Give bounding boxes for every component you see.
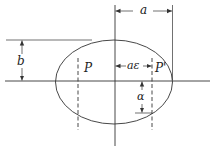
label-p-left: P <box>84 62 92 74</box>
label-ae: aε <box>127 60 139 71</box>
label-p-right: P' <box>155 62 166 74</box>
ellipse <box>56 40 173 124</box>
ellipse-diagram: a b aε P P' α <box>0 0 214 157</box>
label-b: b <box>17 55 25 67</box>
diagram-canvas <box>0 0 214 157</box>
label-alpha: α <box>137 91 144 102</box>
label-a: a <box>140 4 147 16</box>
